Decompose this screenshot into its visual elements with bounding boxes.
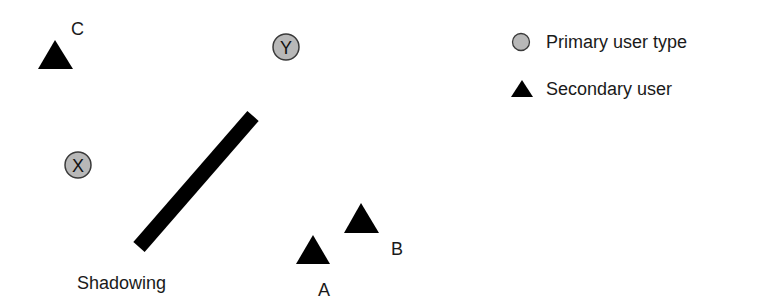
primary-user-x: X [65, 152, 91, 178]
shadowing-barrier [139, 116, 253, 247]
secondary-user-a-label: A [318, 281, 330, 299]
secondary-user-a-triangle-icon [296, 235, 330, 264]
shadowing-label: Shadowing [77, 274, 166, 292]
primary-user-y: Y [273, 34, 299, 60]
legend-secondary-label: Secondary user [546, 80, 672, 98]
secondary-user-c-label: C [71, 20, 84, 38]
secondary-user-b-triangle-icon [344, 203, 379, 233]
secondary-user-b-label: B [391, 240, 403, 258]
legend-circle-icon [513, 34, 530, 51]
legend-primary-label: Primary user type [546, 33, 687, 51]
primary-user-label: X [72, 156, 84, 176]
primary-user-label: Y [280, 38, 292, 58]
legend-triangle-icon [511, 80, 533, 97]
secondary-user-c-triangle-icon [38, 40, 73, 69]
